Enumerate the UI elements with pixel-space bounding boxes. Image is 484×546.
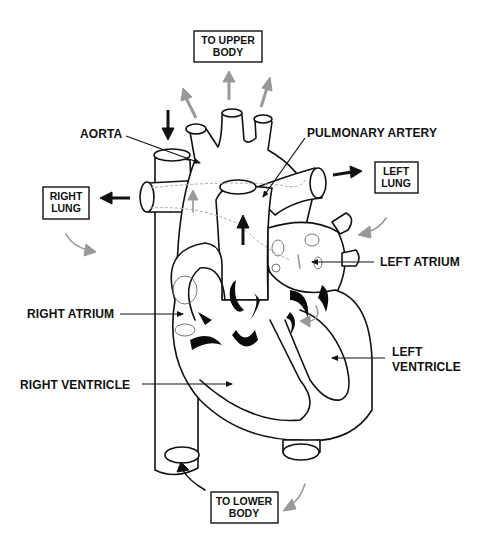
descending-aorta [283,440,320,460]
lower-body-line2: BODY [229,507,259,519]
right-atrium-label: RIGHT ATRIUM [27,307,114,321]
left-lung-line1: LEFT [383,165,410,177]
box-right-lung: RIGHT LUNG [43,187,89,219]
left-atrium-label: LEFT ATRIUM [380,255,460,269]
lower-body-line1: TO LOWER [216,495,273,507]
right-ventricle-label: RIGHT VENTRICLE [20,378,130,392]
aorta-label: AORTA [80,127,123,141]
pulmonary-artery-label: PULMONARY ARTERY [307,126,437,140]
left-ventricle-label-line1: LEFT [392,345,423,359]
left-lung-line2: LUNG [381,177,411,189]
heart-diagram: TO UPPER BODY RIGHT LUNG LEFT LUNG TO LO… [0,0,484,546]
left-ventricle-label-line2: VENTRICLE [392,360,461,374]
inferior-vena-cava-opening [165,447,199,463]
box-left-lung: LEFT LUNG [375,162,418,193]
box-to-lower-body: TO LOWER BODY [211,492,278,523]
box-to-upper-body: TO UPPER BODY [194,31,262,62]
upper-body-line1: TO UPPER [201,34,255,46]
right-lung-line1: RIGHT [50,190,83,202]
right-lung-line2: LUNG [51,202,81,214]
upper-body-line2: BODY [213,46,243,58]
